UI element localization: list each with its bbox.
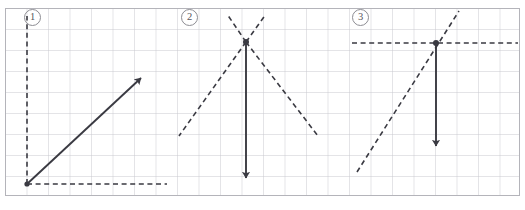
vector-figures-svg (0, 0, 525, 210)
dashed-ray-lower-right-2 (246, 42, 318, 136)
panel-2-figure (179, 14, 318, 178)
dashed-ray-lower-left-2 (179, 42, 246, 136)
dashed-ray-upper-right-2 (246, 14, 266, 42)
dashed-ray-upper-left-2 (227, 14, 246, 42)
panel-label-2: 2 (181, 9, 198, 26)
panel-label-3: 3 (352, 9, 369, 26)
dashed-diagonal-line-3 (357, 11, 459, 172)
panel-1-figure (24, 16, 167, 187)
vertex-dot-2 (243, 39, 249, 45)
panel-label-1: 1 (24, 9, 41, 26)
vertex-dot-3 (433, 40, 439, 46)
vertex-dot-1 (24, 181, 29, 186)
resultant-vector-1 (27, 78, 141, 184)
worksheet-figure: 1 2 3 (0, 0, 525, 210)
panel-3-figure (352, 11, 518, 172)
